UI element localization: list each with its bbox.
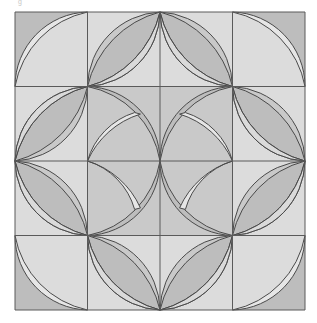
quilt-cell bbox=[160, 161, 233, 236]
quilt-cell bbox=[233, 12, 306, 87]
quilt-cell bbox=[88, 87, 161, 162]
quilt-cell bbox=[15, 161, 88, 236]
quilt-cell bbox=[160, 87, 233, 162]
quilt-cell bbox=[88, 12, 161, 87]
quilt-cell bbox=[233, 87, 306, 162]
quilt-cell bbox=[88, 236, 161, 311]
quilt-cell bbox=[15, 236, 88, 311]
quilt-cell bbox=[160, 12, 233, 87]
quilt-cell bbox=[15, 87, 88, 162]
quilt-cell bbox=[233, 236, 306, 311]
quilt-cell bbox=[233, 161, 306, 236]
quilt-cell bbox=[15, 12, 88, 87]
quilt-pattern bbox=[0, 0, 317, 323]
quilt-cell bbox=[88, 161, 161, 236]
quilt-cell bbox=[160, 236, 233, 311]
